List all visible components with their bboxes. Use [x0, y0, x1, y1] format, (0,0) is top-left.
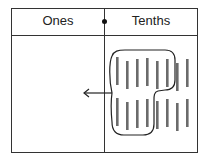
group-outline: [110, 50, 175, 135]
place-value-diagram: Ones Tenths: [0, 0, 209, 158]
tenths-bars: [116, 57, 189, 131]
column-header-ones: Ones: [12, 13, 104, 29]
column-header-tenths: Tenths: [105, 13, 197, 29]
